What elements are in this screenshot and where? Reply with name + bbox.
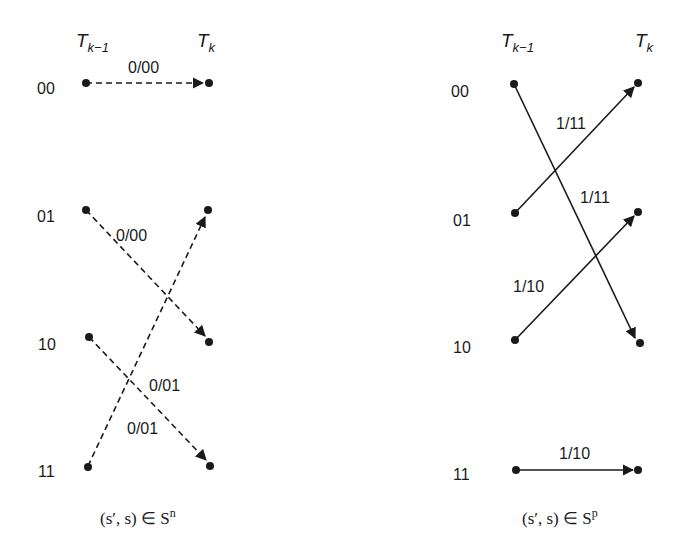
node <box>205 338 213 346</box>
state-label: 01 <box>453 212 471 229</box>
node <box>636 339 644 347</box>
time-label-right: Tk <box>635 30 655 55</box>
edge-label: 1/11 <box>580 189 610 206</box>
state-label: 00 <box>37 80 55 97</box>
edge-label: 1/10 <box>559 445 590 462</box>
caption-normal: (s′, s) ∈ Sn <box>100 506 176 528</box>
edge-label: 1/10 <box>513 278 544 295</box>
node <box>511 209 519 217</box>
panel-parallel: Tk−1 Tk 00 01 10 11 1/11 1/11 1/10 1/10 … <box>451 30 655 528</box>
panel-normal: Tk−1 Tk 00 01 10 11 0/00 0/00 0/01 0/01 … <box>37 30 217 528</box>
node <box>84 463 92 471</box>
state-label: 11 <box>453 466 470 483</box>
time-label-right: Tk <box>197 30 217 55</box>
node <box>85 333 93 341</box>
node <box>634 466 642 474</box>
trellis-diagram: Tk−1 Tk 00 01 10 11 0/00 0/00 0/01 0/01 … <box>0 0 675 558</box>
edge-01-00 <box>515 87 634 213</box>
state-label: 00 <box>451 83 469 100</box>
state-label: 10 <box>453 339 471 356</box>
node <box>206 462 214 470</box>
time-label-left: Tk−1 <box>501 30 534 55</box>
edge-label: 0/00 <box>128 59 159 76</box>
state-label: 11 <box>38 463 55 480</box>
edge-label: 0/00 <box>116 227 147 244</box>
caption-parallel: (s′, s) ∈ Sp <box>522 506 598 528</box>
node <box>82 206 90 214</box>
time-label-left: Tk−1 <box>76 30 109 55</box>
edge-label: 0/01 <box>149 377 180 394</box>
state-label: 10 <box>38 336 56 353</box>
edge-10-11 <box>89 337 206 460</box>
node <box>82 79 90 87</box>
edge-label: 0/01 <box>127 420 158 437</box>
node <box>511 336 519 344</box>
node <box>634 208 642 216</box>
node <box>512 466 520 474</box>
node <box>204 206 212 214</box>
state-label: 01 <box>37 208 55 225</box>
node <box>205 79 213 87</box>
edge-label: 1/11 <box>556 115 586 132</box>
node <box>634 79 642 87</box>
node <box>510 80 518 88</box>
